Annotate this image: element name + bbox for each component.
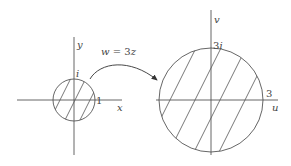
w-plane: v 3i 3 u (80, 10, 291, 166)
real-tick-label: 1 (96, 95, 102, 106)
disk-radius-3-hatching (80, 20, 291, 166)
imag-tick-label-3i: 3i (213, 40, 223, 51)
u-axis-label: u (272, 102, 278, 113)
y-axis-label: y (76, 39, 83, 50)
v-axis-label: v (214, 14, 220, 25)
mapping-label: w = 3z (101, 46, 137, 57)
x-axis-label: x (117, 102, 123, 113)
curved-arrow-icon (90, 65, 157, 80)
imag-tick-label: i (76, 68, 79, 79)
mapping-arrow: w = 3z (90, 46, 157, 80)
mapping-diagram: y i 1 x w = 3z v (0, 0, 291, 166)
real-tick-label-3: 3 (266, 88, 272, 99)
